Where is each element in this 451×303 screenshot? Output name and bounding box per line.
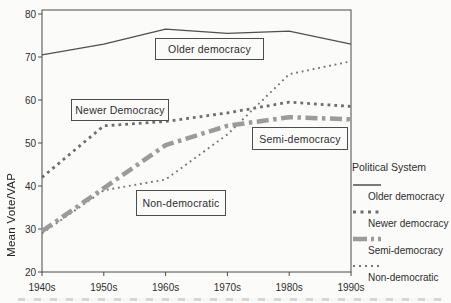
legend-label: Older democracy xyxy=(352,191,450,202)
x-tick-label: 1950s xyxy=(90,282,117,293)
legend-label: Semi-democracy xyxy=(352,245,450,256)
y-tick-label: 50 xyxy=(25,138,37,149)
x-tick-label: 1960s xyxy=(152,282,179,293)
legend-label: Newer democracy xyxy=(352,218,450,229)
y-tick-label: 80 xyxy=(25,9,37,20)
legend-item-newer-democracy: Newer democracy xyxy=(352,209,450,229)
chart-legend: Political System Older democracyNewer de… xyxy=(352,161,450,290)
annotation-older-democracy: Older democracy xyxy=(155,38,264,60)
legend-item-semi-democracy: Semi-democracy xyxy=(352,236,450,256)
y-tick-label: 30 xyxy=(25,224,37,235)
y-tick-label: 20 xyxy=(25,267,37,278)
annotation-non-democratic: Non-democratic xyxy=(136,190,226,216)
legend-items: Older democracyNewer democracySemi-democ… xyxy=(352,182,450,283)
y-tick-label: 70 xyxy=(25,52,37,63)
legend-swatch-square-dotted xyxy=(353,209,383,215)
legend-title: Political System xyxy=(352,161,450,173)
legend-swatch-solid xyxy=(353,182,383,188)
annotation-semi-democracy: Semi-democracy xyxy=(252,127,348,150)
y-axis-title: Mean Vote/VAP xyxy=(5,148,17,282)
x-tick-label: 1980s xyxy=(276,282,303,293)
x-tick-label: 1970s xyxy=(214,282,241,293)
annotation-newer-democracy: Newer Democracy xyxy=(71,99,169,121)
legend-item-non-democratic: Non-democratic xyxy=(352,263,450,283)
annotation-newer-democracy-label: Newer Democracy xyxy=(75,104,164,116)
annotation-older-democracy-label: Older democracy xyxy=(168,43,251,55)
legend-swatch-fine-dotted xyxy=(353,263,383,269)
legend-item-older-democracy: Older democracy xyxy=(352,182,450,202)
scanned-chart-page: 807060504030201940s1950s1960s1970s1980s1… xyxy=(0,0,451,303)
x-tick-label: 1940s xyxy=(28,282,55,293)
cropped-caption-remnant xyxy=(18,298,443,301)
y-tick-label: 40 xyxy=(25,181,37,192)
annotation-semi-democracy-label: Semi-democracy xyxy=(259,133,341,145)
legend-swatch-thick-dash-dot xyxy=(353,236,383,242)
y-tick-label: 60 xyxy=(25,95,37,106)
annotation-non-democratic-label: Non-democratic xyxy=(143,197,220,209)
legend-label: Non-democratic xyxy=(352,272,450,283)
